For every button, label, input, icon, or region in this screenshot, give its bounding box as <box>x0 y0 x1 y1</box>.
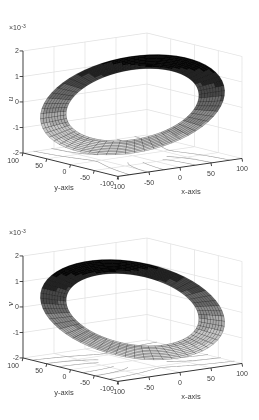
z-tick-label: 2 <box>15 47 19 55</box>
panel-v: ×10-3 v x-axis y-axis 2 1 0 -1 -2 -100 -… <box>0 205 259 420</box>
surface-plot-u[interactable] <box>0 0 259 205</box>
y-tick-label: -100 <box>100 180 114 188</box>
x-axis-label: x-axis <box>181 392 201 401</box>
y-tick-label: 50 <box>35 162 43 170</box>
z-tick-label: 1 <box>15 73 19 81</box>
z-tick-label: 0 <box>15 303 19 311</box>
z-axis-label-u: u <box>6 96 15 101</box>
x-tick-label: 100 <box>236 165 248 173</box>
y-tick-label: 100 <box>7 157 19 165</box>
exp-power: -3 <box>21 23 25 29</box>
x-tick-label: 50 <box>207 375 215 383</box>
x-tick-label: -50 <box>144 384 154 392</box>
x-tick-label: 0 <box>178 379 182 387</box>
z-tick-label: 2 <box>15 252 19 260</box>
x-tick-label: 100 <box>236 370 248 378</box>
y-axis-label: y-axis <box>54 388 74 397</box>
matlab-figure: ×10-3 u x-axis y-axis 2 1 0 -1 -2 -100 -… <box>0 0 259 420</box>
panel-u: ×10-3 u x-axis y-axis 2 1 0 -1 -2 -100 -… <box>0 0 259 215</box>
z-axis-label-v: v <box>6 302 15 307</box>
exp-power: -3 <box>21 228 25 234</box>
x-axis-label: x-axis <box>181 187 201 196</box>
z-tick-label: 1 <box>15 278 19 286</box>
z-tick-label: -1 <box>13 329 19 337</box>
exp-base: ×10 <box>9 24 21 31</box>
y-axis-label: y-axis <box>54 183 74 192</box>
y-tick-label: 50 <box>35 367 43 375</box>
y-tick-label: -50 <box>80 174 90 182</box>
z-tick-label: 0 <box>15 98 19 106</box>
z-exponent-label: ×10-3 <box>9 24 26 31</box>
y-tick-label: 0 <box>63 373 67 381</box>
z-exponent-label: ×10-3 <box>9 229 26 236</box>
y-tick-label: -50 <box>80 379 90 387</box>
x-tick-label: 50 <box>207 170 215 178</box>
x-tick-label: -50 <box>144 179 154 187</box>
y-tick-label: 0 <box>63 168 67 176</box>
surface-plot-v[interactable] <box>0 205 259 410</box>
z-tick-label: -1 <box>13 124 19 132</box>
exp-base: ×10 <box>9 229 21 236</box>
x-tick-label: 0 <box>178 174 182 182</box>
y-tick-label: -100 <box>100 385 114 393</box>
y-tick-label: 100 <box>7 362 19 370</box>
